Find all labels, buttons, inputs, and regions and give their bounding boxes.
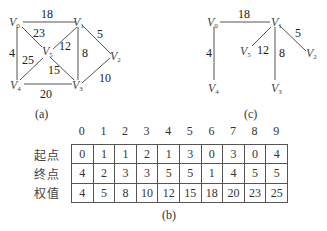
table-cell: 2	[93, 164, 115, 183]
graph-c: V0 V1 V2 V3 V4 V5 18 4 12 8 5 (c)	[206, 7, 317, 121]
weight-5: 5	[97, 27, 103, 41]
row-label-start: 起点	[34, 146, 60, 163]
table-cell: 5	[93, 183, 115, 202]
table-cell: 4	[223, 164, 245, 183]
vertex-v2: V2	[110, 49, 121, 64]
column-index: 2	[114, 124, 136, 139]
weight-c-4: 4	[206, 46, 212, 60]
table-cell: 5	[244, 164, 266, 183]
weight-8: 8	[82, 46, 88, 60]
column-index: 4	[157, 124, 179, 139]
vertex-c-v0: V0	[207, 15, 218, 30]
table-cell: 4	[72, 164, 94, 183]
vertex-v4: V4	[10, 78, 21, 93]
column-index: 8	[244, 124, 266, 139]
table-cell: 0	[72, 145, 94, 164]
table-cell: 20	[223, 183, 245, 202]
vertex-v0: V0	[9, 15, 20, 30]
weight-23: 23	[33, 26, 45, 40]
table-row-end: 4 2 3 3 5 5 1 4 5 5	[72, 164, 288, 183]
vertex-c-v4: V4	[208, 81, 219, 96]
table-cell: 5	[266, 164, 288, 183]
table-cell: 1	[201, 164, 223, 183]
weight-20: 20	[40, 87, 52, 101]
weight-12: 12	[59, 39, 71, 53]
table-row-weight: 4 5 8 10 12 15 18 20 23 25	[72, 183, 288, 202]
vertex-v5: V5	[42, 44, 53, 59]
table-cell: 18	[201, 183, 223, 202]
weight-c-5: 5	[295, 26, 301, 40]
row-label-end: 终点	[34, 165, 60, 182]
table-row-start: 0 1 1 2 1 3 0 3 0 4	[72, 145, 288, 164]
table-cell: 12	[158, 183, 180, 202]
weight-18: 18	[41, 7, 53, 21]
vertex-c-v1: V1	[271, 15, 282, 30]
table-cell: 3	[115, 164, 137, 183]
weight-c-8: 8	[279, 46, 285, 60]
column-index: 6	[201, 124, 223, 139]
weight-c-12: 12	[257, 43, 269, 57]
vertex-c-v5: V5	[240, 44, 251, 59]
weight-4: 4	[9, 46, 15, 60]
table-cell: 1	[158, 145, 180, 164]
table-cell: 3	[136, 164, 158, 183]
caption-b: (b)	[162, 208, 176, 223]
vertex-c-v3: V3	[271, 81, 282, 96]
vertex-v3: V3	[72, 78, 83, 93]
table-cell: 5	[179, 164, 201, 183]
table-cell: 10	[136, 183, 158, 202]
table-cell: 3	[179, 145, 201, 164]
weight-25: 25	[22, 53, 34, 67]
column-index: 5	[179, 124, 201, 139]
table-cell: 0	[201, 145, 223, 164]
table-cell: 1	[115, 145, 137, 164]
table-cell: 1	[93, 145, 115, 164]
graph-a: V0 V1 V2 V3 V4 V5 18 23 4 12 8 5 25 15 2…	[9, 7, 121, 121]
table-cell: 5	[158, 164, 180, 183]
caption-c: (c)	[244, 107, 257, 121]
table-cell: 2	[136, 145, 158, 164]
column-index: 1	[93, 124, 115, 139]
edge-table: 0 1 1 2 1 3 0 3 0 4 4 2 3 3 5 5 1 4 5 5 …	[71, 144, 288, 203]
column-index: 3	[136, 124, 158, 139]
table-cell: 23	[244, 183, 266, 202]
weight-15: 15	[48, 63, 60, 77]
table-cell: 3	[223, 145, 245, 164]
column-index: 9	[265, 124, 287, 139]
table-cell: 4	[266, 145, 288, 164]
table-cell: 15	[179, 183, 201, 202]
column-index: 0	[71, 124, 93, 139]
vertex-v1: V1	[73, 15, 84, 30]
weight-10: 10	[99, 71, 111, 85]
table-cell: 0	[244, 145, 266, 164]
column-index: 7	[222, 124, 244, 139]
table-cell: 8	[115, 183, 137, 202]
vertex-c-v2: V2	[306, 46, 317, 61]
table-cell: 4	[72, 183, 94, 202]
weight-c-18: 18	[238, 7, 250, 21]
caption-a: (a)	[35, 107, 48, 121]
table-cell: 25	[266, 183, 288, 202]
row-label-weight: 权值	[34, 184, 60, 201]
